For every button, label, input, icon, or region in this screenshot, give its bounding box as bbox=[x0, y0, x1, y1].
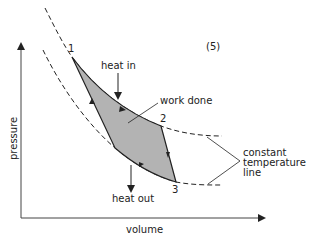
isotherm-callout: constant temperature line bbox=[207, 137, 306, 184]
point-2-label: 2 bbox=[160, 113, 166, 124]
point-3-label: 3 bbox=[172, 184, 178, 195]
figure-number: (5) bbox=[206, 41, 220, 52]
isotherm-label-line3: line bbox=[243, 167, 261, 178]
isotherm-leader-upper bbox=[207, 137, 240, 161]
x-axis-label: volume bbox=[126, 224, 163, 235]
point-1-label: 1 bbox=[68, 43, 74, 54]
work-done-label: work done bbox=[160, 95, 212, 106]
pv-diagram: 1 2 3 (5) heat in work done heat out con… bbox=[0, 0, 312, 240]
heat-in-label: heat in bbox=[101, 60, 136, 71]
isotherm-leader-lower bbox=[208, 161, 240, 184]
y-axis-label: pressure bbox=[8, 117, 19, 160]
heat-out-label: heat out bbox=[112, 193, 154, 204]
